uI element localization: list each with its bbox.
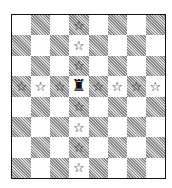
square-f8 xyxy=(108,15,127,35)
square-g7 xyxy=(127,35,146,55)
square-c4 xyxy=(50,97,69,117)
square-b6 xyxy=(31,56,50,76)
square-e6 xyxy=(89,56,108,76)
star-icon: ☆ xyxy=(130,80,142,93)
star-icon: ☆ xyxy=(73,121,85,134)
square-b2 xyxy=(31,137,50,157)
square-c8 xyxy=(50,15,69,35)
square-f5: ☆ xyxy=(108,76,127,96)
square-e2 xyxy=(89,137,108,157)
square-b4 xyxy=(31,97,50,117)
square-b5: ☆ xyxy=(31,76,50,96)
square-d8: ☆ xyxy=(69,15,88,35)
square-d2: ☆ xyxy=(69,137,88,157)
star-icon: ☆ xyxy=(16,80,28,93)
square-h3 xyxy=(146,117,165,137)
square-c6 xyxy=(50,56,69,76)
square-g3 xyxy=(127,117,146,137)
star-icon: ☆ xyxy=(73,19,85,32)
square-f3 xyxy=(108,117,127,137)
square-a1 xyxy=(12,158,31,178)
square-c7 xyxy=(50,35,69,55)
star-icon: ☆ xyxy=(35,80,47,93)
square-c5: ☆ xyxy=(50,76,69,96)
square-b1 xyxy=(31,158,50,178)
square-d1: ☆ xyxy=(69,158,88,178)
square-d3: ☆ xyxy=(69,117,88,137)
square-a6 xyxy=(12,56,31,76)
square-h5: ☆ xyxy=(146,76,165,96)
square-a3 xyxy=(12,117,31,137)
square-f7 xyxy=(108,35,127,55)
square-d7: ☆ xyxy=(69,35,88,55)
square-e1 xyxy=(89,158,108,178)
square-f4 xyxy=(108,97,127,117)
square-f2 xyxy=(108,137,127,157)
star-icon: ☆ xyxy=(73,39,85,52)
square-a7 xyxy=(12,35,31,55)
square-e4 xyxy=(89,97,108,117)
chessboard: ☆☆☆☆☆☆♜☆☆☆☆☆☆☆☆ xyxy=(11,14,166,179)
square-g2 xyxy=(127,137,146,157)
square-c1 xyxy=(50,158,69,178)
star-icon: ☆ xyxy=(73,161,85,174)
star-icon: ☆ xyxy=(73,59,85,72)
square-d5: ♜ xyxy=(69,76,88,96)
square-b7 xyxy=(31,35,50,55)
square-a2 xyxy=(12,137,31,157)
square-e3 xyxy=(89,117,108,137)
square-c3 xyxy=(50,117,69,137)
square-e7 xyxy=(89,35,108,55)
square-f6 xyxy=(108,56,127,76)
square-c2 xyxy=(50,137,69,157)
star-icon: ☆ xyxy=(92,80,104,93)
star-icon: ☆ xyxy=(73,100,85,113)
square-h1 xyxy=(146,158,165,178)
star-icon: ☆ xyxy=(111,80,123,93)
star-icon: ☆ xyxy=(73,141,85,154)
square-h2 xyxy=(146,137,165,157)
square-g8 xyxy=(127,15,146,35)
square-h6 xyxy=(146,56,165,76)
square-a4 xyxy=(12,97,31,117)
square-h8 xyxy=(146,15,165,35)
square-g1 xyxy=(127,158,146,178)
square-g4 xyxy=(127,97,146,117)
square-a8 xyxy=(12,15,31,35)
square-b3 xyxy=(31,117,50,137)
square-e5: ☆ xyxy=(89,76,108,96)
square-b8 xyxy=(31,15,50,35)
square-g6 xyxy=(127,56,146,76)
square-h4 xyxy=(146,97,165,117)
square-f1 xyxy=(108,158,127,178)
star-icon: ☆ xyxy=(150,80,162,93)
square-a5: ☆ xyxy=(12,76,31,96)
square-d4: ☆ xyxy=(69,97,88,117)
square-h7 xyxy=(146,35,165,55)
square-e8 xyxy=(89,15,108,35)
rook-icon: ♜ xyxy=(72,78,86,94)
star-icon: ☆ xyxy=(54,80,66,93)
square-d6: ☆ xyxy=(69,56,88,76)
square-g5: ☆ xyxy=(127,76,146,96)
